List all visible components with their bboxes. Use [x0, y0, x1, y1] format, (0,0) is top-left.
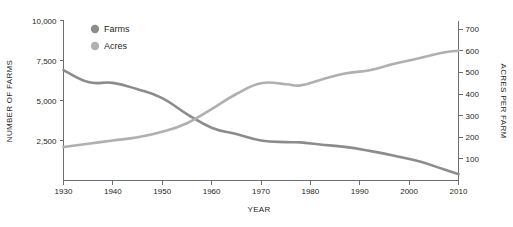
y2-tick-label: 500 [466, 68, 480, 77]
legend-label-acres: Acres [104, 41, 128, 51]
y2-tick-label: 300 [466, 112, 480, 121]
y2-tick-label: 400 [466, 90, 480, 99]
y-axis-left-title: NUMBER OF FARMS [5, 60, 14, 142]
y-tick-label: 10,000 [32, 17, 57, 26]
false [91, 25, 99, 33]
y2-tick-label: 600 [466, 47, 480, 56]
y-tick-label: 2,500 [36, 137, 57, 146]
x-tick-label: 1980 [301, 187, 319, 196]
series-lines [64, 51, 459, 174]
y-axis-right-title: ACRES PER FARM [499, 64, 508, 139]
x-tick-label: 1930 [55, 187, 73, 196]
y2-tick-label: 100 [466, 155, 480, 164]
y-axis-left-ticks: 2,5005,0007,50010,000 [32, 17, 63, 146]
series-line-farms [64, 70, 459, 174]
x-tick-label: 1950 [153, 187, 171, 196]
x-tick-label: 1960 [203, 187, 221, 196]
line-chart: 193019401950196019701980199020002010 2,5… [0, 0, 513, 227]
x-tick-label: 2010 [450, 187, 468, 196]
chart-container: 193019401950196019701980199020002010 2,5… [0, 0, 513, 227]
x-tick-label: 1940 [104, 187, 122, 196]
x-axis-title: YEAR [248, 205, 271, 214]
legend-label-farms: Farms [104, 24, 130, 34]
false [91, 42, 99, 50]
x-tick-label: 1970 [252, 187, 270, 196]
x-axis-ticks: 193019401950196019701980199020002010 [55, 181, 468, 196]
x-tick-label: 2000 [400, 187, 418, 196]
series-line-acres [64, 51, 459, 147]
y-axis-right-ticks: 100200300400500600700 [459, 25, 480, 164]
x-tick-label: 1990 [351, 187, 369, 196]
y-tick-label: 5,000 [36, 97, 57, 106]
y-tick-label: 7,500 [36, 57, 57, 66]
y2-tick-label: 700 [466, 25, 480, 34]
chart-legend: FarmsAcres [91, 24, 130, 51]
y2-tick-label: 200 [466, 133, 480, 142]
